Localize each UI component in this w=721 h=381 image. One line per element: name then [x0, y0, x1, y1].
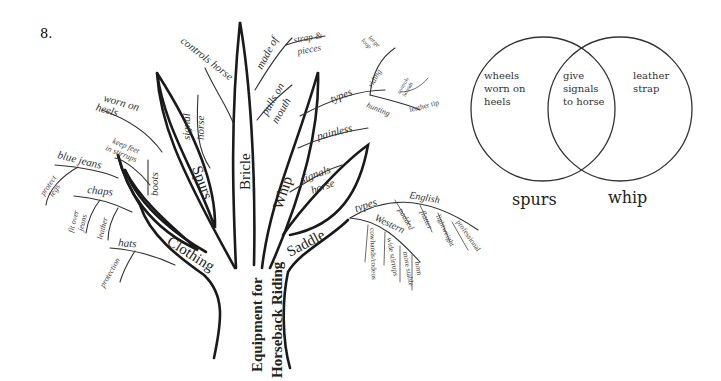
more-stable-text: more stable: [401, 251, 416, 287]
hunting-text: hunting: [365, 101, 391, 119]
wide-stirrups-line: [384, 232, 385, 265]
protection-text: protection: [97, 256, 122, 290]
svg-text:horse: horse: [194, 115, 206, 140]
clothing-label: Clothing: [164, 233, 217, 275]
flatter-text: flatter: [418, 209, 435, 231]
svg-text:strap: strap: [633, 83, 659, 94]
leather-line: [108, 208, 118, 240]
venn-label-spurs: spurs: [512, 190, 557, 209]
large-loop-text: large loop: [360, 32, 382, 54]
bridle-stalk: [233, 22, 254, 268]
saddle-types-text: types: [353, 196, 378, 214]
whip-label: Whip: [270, 174, 296, 211]
root-label: Equipment for Horseback Riding: [249, 261, 285, 378]
protect-legs-text: protect legs: [38, 173, 66, 203]
svg-text:give: give: [563, 70, 584, 81]
wide-stirrups-text: wide stirrups: [385, 237, 401, 277]
pulls-on-mouth-text: pulls on mouth: [257, 80, 297, 125]
venn-right-only: leather strap: [633, 70, 669, 94]
worn-on-heels-text: worn on heels: [95, 90, 142, 124]
svg-text:signals: signals: [563, 83, 598, 94]
chaps-line: [74, 196, 132, 212]
made-of-text: made of: [253, 33, 281, 71]
riding-text: riding: [366, 68, 384, 89]
hats-text: hats: [118, 236, 137, 249]
svg-text:worn on: worn on: [484, 83, 526, 94]
cowhands-rodeos-text: cowhands/rodeos: [368, 228, 379, 280]
venn-left-only: wheels worn on heels: [484, 70, 526, 107]
whip-types-text: types: [328, 85, 353, 105]
tree-diagram: 8. Equipment for Hors: [0, 0, 721, 381]
signals-horse-text: signals horse: [299, 163, 337, 198]
keep-feet-text: keep feet in stirrups: [104, 135, 141, 164]
svg-text:pieces: pieces: [296, 42, 322, 56]
controls-hounds-text: controls hounds: [396, 76, 415, 97]
controls-horse-text: controls horse: [179, 34, 236, 82]
svg-text:leather: leather: [633, 70, 669, 81]
strap-pieces-text: strap & pieces: [293, 30, 326, 57]
venn-label-whip: whip: [608, 188, 647, 207]
chaps-text: chaps: [87, 183, 114, 198]
svg-text:heels: heels: [484, 96, 511, 107]
svg-text:wheels: wheels: [484, 70, 519, 81]
svg-text:to horse: to horse: [563, 96, 605, 107]
clothing-branch-outline: [125, 170, 206, 252]
boots-text: boots: [148, 172, 160, 196]
bridle-label: Bricle: [237, 153, 253, 190]
spurs-leaf: [157, 73, 215, 228]
leather-tip-text: leather tip: [408, 98, 440, 114]
venn-overlap: give signals to horse: [563, 70, 605, 107]
cowhands-line: [365, 225, 368, 262]
venn-circle-spurs: [471, 37, 615, 181]
venn-circle-whip: [548, 37, 692, 181]
painless-text: painless: [315, 122, 354, 143]
svg-text:Equipment for: Equipment for: [249, 277, 265, 372]
svg-text:Horseback Riding: Horseback Riding: [269, 261, 285, 378]
lightweight-text: lightweight: [434, 213, 457, 249]
protection-line: [120, 251, 135, 282]
svg-text:signal: signal: [180, 113, 192, 140]
spurs-label: Spurs: [189, 164, 216, 202]
item-number: 8.: [40, 26, 52, 41]
venn-diagram: wheels worn on heels give signals to hor…: [471, 37, 692, 209]
